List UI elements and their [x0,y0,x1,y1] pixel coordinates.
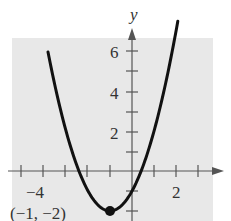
x-axis-arrow-icon [212,167,224,175]
y-axis-label: y [128,5,138,24]
x-tick-label-neg4: −4 [26,183,45,202]
y-tick-label-2: 2 [110,124,119,143]
parabola-graph: y 6 4 2 −4 2 (−1, −2) [0,0,231,221]
y-tick-label-4: 4 [110,84,119,103]
x-tick-label-2: 2 [172,183,181,202]
vertex-label: (−1, −2) [10,204,66,221]
vertex-point [105,206,115,216]
y-tick-label-6: 6 [110,43,119,62]
y-axis-arrow-icon [128,28,136,40]
